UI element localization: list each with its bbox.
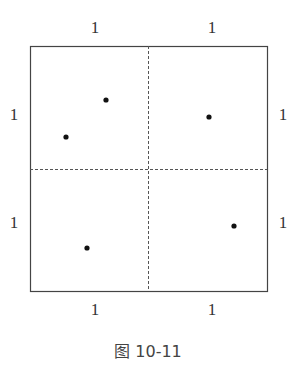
label-left-top: 1 bbox=[10, 106, 19, 123]
label-left-bottom: 1 bbox=[10, 214, 19, 231]
square-diagram bbox=[0, 0, 294, 367]
points-group bbox=[63, 97, 236, 250]
label-top-right: 1 bbox=[208, 19, 217, 36]
point-dot bbox=[103, 97, 108, 102]
point-dot bbox=[63, 134, 68, 139]
point-dot bbox=[206, 114, 211, 119]
label-top-left: 1 bbox=[91, 19, 100, 36]
figure-caption: 图 10-11 bbox=[114, 338, 182, 362]
label-right-top: 1 bbox=[279, 106, 288, 123]
label-bottom-left: 1 bbox=[91, 301, 100, 318]
point-dot bbox=[84, 245, 89, 250]
label-right-bottom: 1 bbox=[279, 214, 288, 231]
label-bottom-right: 1 bbox=[208, 301, 217, 318]
point-dot bbox=[231, 223, 236, 228]
